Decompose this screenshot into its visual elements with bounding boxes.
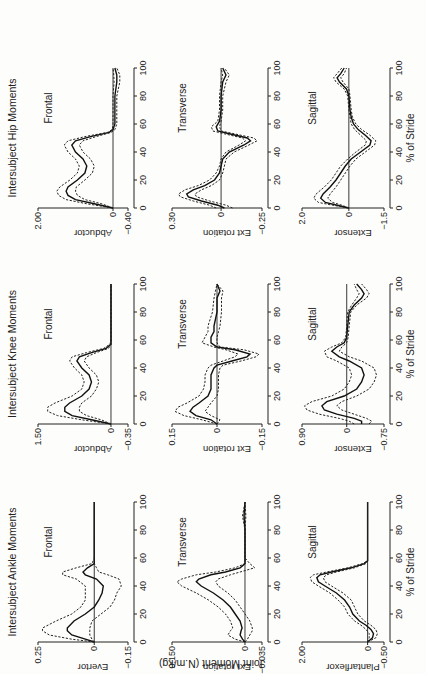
y-axis-label: Ext rotation	[203, 444, 251, 455]
y-tick-label: 2.00	[33, 212, 43, 230]
x-tick-label: 0	[272, 421, 282, 426]
panel-group-title: Intersubject Hip Moments	[6, 78, 18, 197]
shared-y-axis-label: Joint Moment (N.m/kg)	[159, 658, 265, 670]
x-tick-label: 100	[272, 494, 282, 509]
x-tick-label: 80	[272, 91, 282, 101]
x-tick-label: 80	[138, 307, 148, 317]
sd-curve	[314, 68, 367, 208]
joint-moments-figure: 0.250−0.15020406080100EvertorFrontalInte…	[0, 0, 426, 674]
x-tick-label: 20	[138, 175, 148, 185]
y-tick-label: 0.25	[33, 646, 43, 664]
y-tick-label: −1.5	[379, 212, 389, 230]
chart-canvas: 0.250−0.15020406080100EvertorFrontalInte…	[0, 0, 426, 674]
x-tick-label: 80	[272, 307, 282, 317]
x-tick-label: 60	[272, 119, 282, 129]
x-tick-label: 60	[138, 119, 148, 129]
x-tick-label: 60	[272, 335, 282, 345]
x-axis-label: % of Stride	[405, 113, 416, 162]
x-tick-label: 100	[272, 276, 282, 291]
panel-label: Transverse	[177, 517, 188, 567]
x-tick-label: 20	[138, 609, 148, 619]
panel-label: Transverse	[177, 299, 188, 349]
mean-curve	[67, 502, 103, 642]
x-tick-label: 0	[138, 639, 148, 644]
y-axis-label: Abductor	[74, 444, 112, 455]
x-tick-label: 80	[394, 307, 404, 317]
panel-knee-sagittal: 0.900−0.75020406080100ExtensorSagittal% …	[297, 276, 416, 455]
y-tick-label: 0	[240, 646, 250, 651]
y-tick-label: −0.40	[123, 212, 133, 235]
y-tick-label: −0.75	[379, 428, 389, 451]
panel-label: Sagittal	[307, 525, 318, 558]
y-tick-label: 2.0	[297, 212, 307, 225]
sd-curve	[179, 68, 246, 208]
x-tick-label: 40	[272, 363, 282, 373]
y-tick-label: 0	[342, 428, 352, 433]
panel-label: Frontal	[43, 92, 54, 123]
panel-hip-transverse: 0.300−0.25020406080100Ext rotationTransv…	[167, 60, 282, 239]
y-tick-label: 0.15	[167, 428, 177, 446]
panel-knee-frontal: 1.500−0.35020406080100AbductorFrontalInt…	[6, 276, 148, 455]
x-tick-label: 60	[394, 553, 404, 563]
panel-ankle-frontal: 0.250−0.15020406080100EvertorFrontalInte…	[6, 494, 148, 673]
y-tick-label: −0.15	[123, 646, 133, 669]
sd-curve	[305, 284, 360, 424]
panel-hip-sagittal: 2.00−1.5020406080100ExtensorSagittal% of…	[297, 60, 416, 239]
x-tick-label: 100	[138, 60, 148, 75]
x-tick-label: 0	[394, 421, 404, 426]
x-tick-label: 60	[138, 335, 148, 345]
x-axis-label: % of Stride	[405, 329, 416, 378]
x-tick-label: 20	[394, 175, 404, 185]
x-tick-label: 0	[272, 639, 282, 644]
sd-curve	[48, 284, 111, 424]
mean-curve	[321, 68, 371, 208]
x-tick-label: 80	[138, 525, 148, 535]
x-tick-label: 80	[394, 91, 404, 101]
x-tick-label: 60	[272, 553, 282, 563]
x-tick-label: 100	[138, 276, 148, 291]
y-tick-label: 0.90	[297, 428, 307, 446]
y-tick-label: 0.30	[167, 212, 177, 230]
y-tick-label: 1.50	[33, 428, 43, 446]
x-tick-label: 80	[138, 91, 148, 101]
y-tick-label: 0	[216, 212, 226, 217]
y-tick-label: 2.00	[297, 646, 307, 664]
x-tick-label: 0	[394, 205, 404, 210]
x-tick-label: 0	[394, 639, 404, 644]
y-tick-label: 0	[106, 428, 116, 433]
x-tick-label: 20	[272, 609, 282, 619]
panel-label: Sagittal	[307, 91, 318, 124]
y-axis-label: Ext rotation	[203, 228, 251, 239]
mean-curve	[322, 284, 364, 424]
y-axis-label: Evertor	[78, 662, 109, 673]
x-tick-label: 60	[394, 119, 404, 129]
sd-curve	[337, 284, 377, 424]
x-tick-label: 40	[394, 363, 404, 373]
x-tick-label: 40	[272, 581, 282, 591]
x-tick-label: 60	[138, 553, 148, 563]
x-tick-label: 100	[394, 276, 404, 291]
y-tick-label: 0	[212, 428, 222, 433]
x-tick-label: 20	[272, 175, 282, 185]
x-tick-label: 20	[272, 391, 282, 401]
panel-label: Frontal	[43, 308, 54, 339]
panel-group-title: Intersubject Ankle Moments	[6, 508, 18, 637]
panel-label: Transverse	[177, 83, 188, 133]
panel-group-title: Intersubject Knee Moments	[6, 290, 18, 418]
y-axis-label: Abductor	[74, 228, 112, 239]
panel-ankle-transverse: 0.1500−0.035020406080100Ext rotationTran…	[167, 494, 282, 673]
x-tick-label: 0	[138, 421, 148, 426]
sd-curve	[79, 284, 111, 424]
x-tick-label: 100	[394, 60, 404, 75]
x-tick-label: 20	[138, 391, 148, 401]
x-tick-label: 0	[138, 205, 148, 210]
y-tick-label: 0	[344, 212, 354, 217]
x-tick-label: 0	[272, 205, 282, 210]
sd-curve	[43, 502, 95, 642]
x-tick-label: 40	[272, 147, 282, 157]
x-axis-label: % of Stride	[405, 547, 416, 596]
y-tick-label: −0.25	[257, 212, 267, 235]
x-tick-label: 80	[394, 525, 404, 535]
mean-curve	[187, 68, 251, 208]
y-tick-label: 0	[108, 212, 118, 217]
